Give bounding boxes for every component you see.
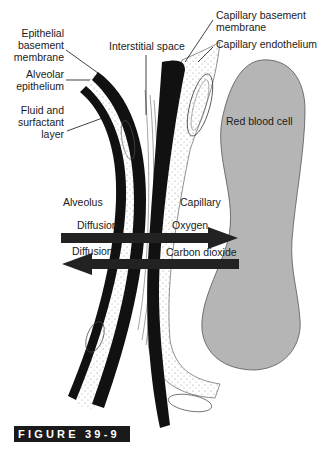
label-interstitial-space: Interstitial space (109, 40, 185, 52)
label-alveolus: Alveolus (63, 196, 103, 208)
label-diffusion-co2: Diffusion (72, 245, 113, 257)
label-oxygen: Oxygen (172, 219, 208, 231)
label-carbon-dioxide: Carbon dioxide (166, 246, 237, 258)
label-capillary-endothelium: Capillary endothelium (216, 38, 317, 50)
label-epithelial-basement-membrane: Epithelial basement membrane (4, 27, 64, 63)
label-fluid-surfactant-layer: Fluid and surfactant layer (4, 104, 64, 140)
label-alveolar-epithelium: Alveolar epithelium (4, 68, 64, 92)
label-capillary-basement-membrane: Capillary basement membrane (216, 9, 306, 33)
red-blood-cell-shape (202, 60, 305, 370)
figure-caption: FIGURE 39-9 (14, 426, 130, 442)
label-capillary: Capillary (180, 196, 221, 208)
label-red-blood-cell: Red blood cell (226, 115, 293, 127)
label-diffusion-oxygen: Diffusion (77, 219, 118, 231)
